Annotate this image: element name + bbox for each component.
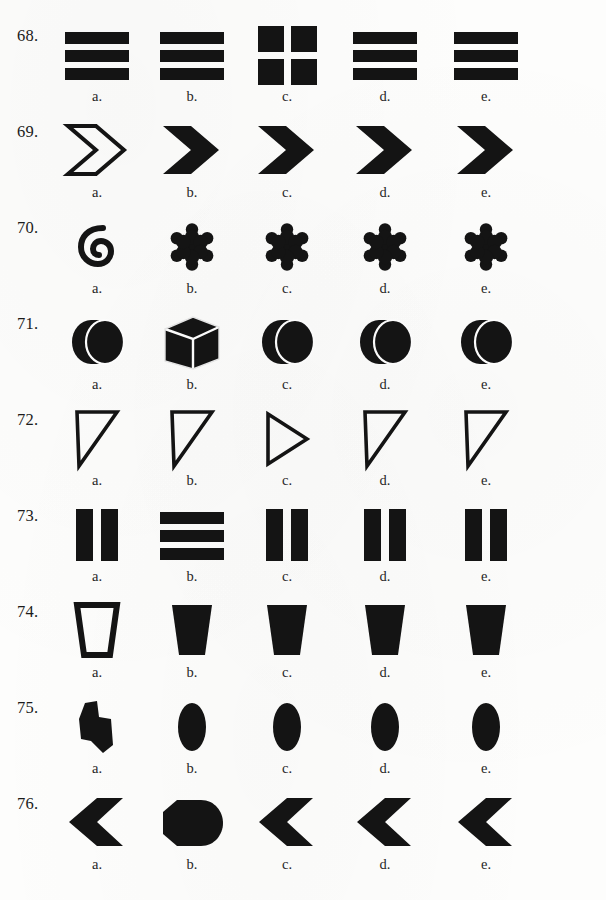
cube-3d-icon[interactable] (137, 308, 247, 378)
answer-option[interactable]: b. (137, 596, 247, 691)
answer-option[interactable]: c. (232, 308, 342, 403)
answer-option[interactable]: e. (431, 308, 541, 403)
three-horizontal-bars-icon[interactable] (137, 20, 247, 90)
answer-option[interactable]: c. (232, 20, 342, 115)
chevron-left-icon[interactable] (431, 788, 541, 858)
answer-option[interactable]: b. (137, 692, 247, 787)
answer-option[interactable]: a. (42, 212, 152, 307)
three-horizontal-bars-icon[interactable] (330, 20, 440, 90)
answer-option[interactable]: a. (42, 116, 152, 211)
answer-option[interactable]: a. (42, 500, 152, 595)
chevron-left-icon[interactable] (42, 788, 152, 858)
answer-option[interactable]: e. (431, 596, 541, 691)
zigzag-polygon-icon[interactable] (42, 692, 152, 762)
answer-option[interactable]: e. (431, 20, 541, 115)
three-horizontal-bars-icon[interactable] (137, 500, 247, 570)
answer-option[interactable]: c. (232, 596, 342, 691)
answer-option[interactable]: b. (137, 308, 247, 403)
trapezoid-icon[interactable] (137, 596, 247, 666)
answer-option[interactable]: c. (232, 116, 342, 211)
trapezoid-icon[interactable] (42, 596, 152, 666)
answer-option[interactable]: d. (330, 500, 440, 595)
answer-option[interactable]: d. (330, 308, 440, 403)
answer-option[interactable]: e. (431, 692, 541, 787)
answer-option[interactable]: b. (137, 404, 247, 499)
question-number: 72. (17, 410, 38, 430)
triangle-down-left-icon[interactable] (42, 404, 152, 474)
answer-option[interactable]: d. (330, 212, 440, 307)
ellipse-icon[interactable] (431, 692, 541, 762)
chevron-left-icon[interactable] (232, 788, 342, 858)
answer-option[interactable]: e. (431, 788, 541, 883)
ellipse-icon[interactable] (137, 692, 247, 762)
answer-option[interactable]: b. (137, 20, 247, 115)
answer-option[interactable]: d. (330, 596, 440, 691)
answer-option[interactable]: e. (431, 500, 541, 595)
answer-option[interactable]: a. (42, 404, 152, 499)
trapezoid-icon[interactable] (232, 596, 342, 666)
ellipse-icon[interactable] (232, 692, 342, 762)
six-lobe-star-icon[interactable] (137, 212, 247, 282)
chevron-right-icon[interactable] (42, 116, 152, 186)
triangle-right-icon[interactable] (232, 404, 342, 474)
question-number: 70. (17, 218, 38, 238)
cylinder-disc-icon[interactable] (232, 308, 342, 378)
two-vertical-bars-icon[interactable] (330, 500, 440, 570)
answer-option[interactable]: b. (137, 212, 247, 307)
chevron-right-icon[interactable] (330, 116, 440, 186)
question-number: 76. (17, 794, 38, 814)
trapezoid-icon[interactable] (330, 596, 440, 666)
answer-option[interactable]: c. (232, 692, 342, 787)
six-lobe-star-icon[interactable] (431, 212, 541, 282)
question-number: 73. (17, 506, 38, 526)
six-lobe-star-icon[interactable] (330, 212, 440, 282)
answer-option[interactable]: d. (330, 788, 440, 883)
six-lobe-star-icon[interactable] (232, 212, 342, 282)
answer-option[interactable]: b. (137, 788, 247, 883)
spiral-icon[interactable] (42, 212, 152, 282)
chevron-right-icon[interactable] (431, 116, 541, 186)
two-vertical-bars-icon[interactable] (42, 500, 152, 570)
option-letter: e. (431, 472, 541, 489)
ellipse-icon[interactable] (330, 692, 440, 762)
option-letter: d. (330, 760, 440, 777)
four-squares-grid-icon[interactable] (232, 20, 342, 90)
answer-option[interactable]: d. (330, 404, 440, 499)
chevron-right-icon[interactable] (232, 116, 342, 186)
answer-option[interactable]: c. (232, 212, 342, 307)
answer-option[interactable]: d. (330, 20, 440, 115)
answer-option[interactable]: a. (42, 308, 152, 403)
answer-option[interactable]: c. (232, 500, 342, 595)
rounded-blob-icon[interactable] (137, 788, 247, 858)
answer-option[interactable]: b. (137, 500, 247, 595)
answer-option[interactable]: d. (330, 692, 440, 787)
answer-option[interactable]: b. (137, 116, 247, 211)
answer-option[interactable]: a. (42, 788, 152, 883)
cylinder-disc-icon[interactable] (42, 308, 152, 378)
answer-option[interactable]: a. (42, 596, 152, 691)
answer-option[interactable]: a. (42, 692, 152, 787)
answer-option[interactable]: a. (42, 20, 152, 115)
option-letter: b. (137, 280, 247, 297)
chevron-left-icon[interactable] (330, 788, 440, 858)
answer-option[interactable]: e. (431, 212, 541, 307)
cylinder-disc-icon[interactable] (330, 308, 440, 378)
three-horizontal-bars-icon[interactable] (431, 20, 541, 90)
answer-option[interactable]: c. (232, 404, 342, 499)
cylinder-disc-icon[interactable] (431, 308, 541, 378)
triangle-down-left-icon[interactable] (330, 404, 440, 474)
option-letter: a. (42, 760, 152, 777)
triangle-down-left-icon[interactable] (137, 404, 247, 474)
answer-option[interactable]: e. (431, 404, 541, 499)
two-vertical-bars-icon[interactable] (431, 500, 541, 570)
answer-option[interactable]: d. (330, 116, 440, 211)
answer-option[interactable]: c. (232, 788, 342, 883)
two-vertical-bars-icon[interactable] (232, 500, 342, 570)
trapezoid-icon[interactable] (431, 596, 541, 666)
option-letter: e. (431, 376, 541, 393)
triangle-down-left-icon[interactable] (431, 404, 541, 474)
chevron-right-icon[interactable] (137, 116, 247, 186)
three-horizontal-bars-icon[interactable] (42, 20, 152, 90)
option-letter: a. (42, 856, 152, 873)
answer-option[interactable]: e. (431, 116, 541, 211)
